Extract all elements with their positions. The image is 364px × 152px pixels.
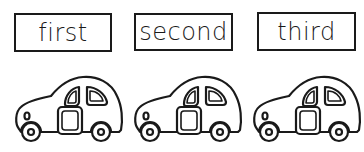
label-text: second <box>139 18 228 46</box>
label-text: first <box>38 19 87 47</box>
car-icon <box>249 74 364 146</box>
label-second: second <box>134 13 233 51</box>
label-text: third <box>277 18 335 46</box>
car-icon <box>11 74 127 146</box>
car-icon <box>130 74 246 146</box>
label-third: third <box>257 12 356 51</box>
label-first: first <box>14 13 112 52</box>
